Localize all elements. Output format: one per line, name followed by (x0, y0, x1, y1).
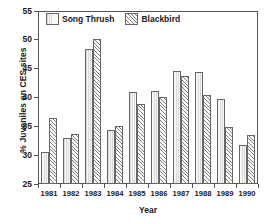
y-tick-label: 40 (23, 92, 32, 102)
bar-song-thrush-1982 (63, 138, 71, 184)
y-tick-mark (34, 39, 38, 40)
x-tick-label: 1990 (232, 189, 262, 199)
y-tick-mark (34, 68, 38, 69)
bar-song-thrush-1981 (41, 152, 49, 184)
y-tick-mark (34, 155, 38, 156)
x-tick-mark (236, 184, 237, 188)
bar-song-thrush-1984 (107, 130, 115, 184)
y-tick-label: 45 (23, 63, 32, 73)
x-tick-mark (170, 184, 171, 188)
x-axis-title: Year (38, 205, 258, 215)
x-tick-mark (192, 184, 193, 188)
x-tick-mark (258, 184, 259, 188)
bar-chart: % Juveniles on CES sites 25303540455055 … (0, 0, 267, 223)
y-tick-label: 50 (23, 34, 32, 44)
bar-blackbird-1983 (93, 39, 101, 184)
legend-item-song-thrush: Song Thrush (46, 13, 114, 25)
x-tick-mark (148, 184, 149, 188)
y-tick-label: 35 (23, 121, 32, 131)
legend-swatch-blackbird (125, 13, 138, 25)
bar-song-thrush-1983 (85, 49, 93, 184)
x-tick-mark (82, 184, 83, 188)
bar-song-thrush-1988 (195, 72, 203, 184)
bar-blackbird-1985 (137, 104, 145, 184)
x-tick-mark (126, 184, 127, 188)
legend-swatch-song-thrush (46, 13, 59, 25)
y-tick-mark (34, 126, 38, 127)
x-tick-mark (104, 184, 105, 188)
bar-song-thrush-1987 (173, 71, 181, 184)
y-tick-label: 30 (23, 150, 32, 160)
bar-blackbird-1981 (49, 118, 57, 184)
bar-song-thrush-1989 (217, 99, 225, 184)
x-tick-mark (214, 184, 215, 188)
bar-blackbird-1988 (203, 95, 211, 184)
bar-blackbird-1989 (225, 127, 233, 184)
bar-blackbird-1982 (71, 134, 79, 184)
y-tick-label: 25 (23, 179, 32, 189)
chart-legend: Song Thrush Blackbird (46, 13, 187, 25)
y-tick-mark (34, 11, 38, 12)
legend-label-blackbird: Blackbird (141, 14, 180, 24)
x-tick-mark (38, 184, 39, 188)
y-tick-label: 55 (23, 6, 32, 16)
bar-blackbird-1984 (115, 126, 123, 184)
bar-song-thrush-1990 (239, 145, 247, 184)
legend-item-blackbird: Blackbird (125, 13, 180, 25)
bar-blackbird-1987 (181, 76, 189, 184)
y-tick-mark (34, 97, 38, 98)
bar-song-thrush-1985 (129, 92, 137, 184)
bar-blackbird-1986 (159, 97, 167, 184)
bar-song-thrush-1986 (151, 91, 159, 184)
x-tick-mark (60, 184, 61, 188)
legend-label-song-thrush: Song Thrush (62, 14, 114, 24)
bar-blackbird-1990 (247, 135, 255, 184)
